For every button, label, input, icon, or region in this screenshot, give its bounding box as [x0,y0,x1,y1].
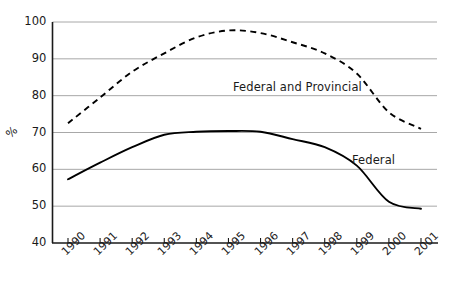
y-axis-tick-label: 50 [32,198,47,212]
y-axis-tick-label: 60 [32,161,47,175]
y-axis-tick-label: 90 [32,51,47,65]
y-axis-tick-label: 100 [24,14,46,28]
y-axis-tick-label: 80 [32,88,47,102]
y-axis-tick-label: 40 [32,235,47,249]
series-label-federal: Federal [352,153,395,167]
line-chart: 100908070605040 199019911992199319941995… [0,0,450,284]
series-label-federal-and-provincial: Federal and Provincial [233,80,362,94]
y-axis-tick-label: 70 [32,125,47,139]
gridlines [53,22,438,206]
